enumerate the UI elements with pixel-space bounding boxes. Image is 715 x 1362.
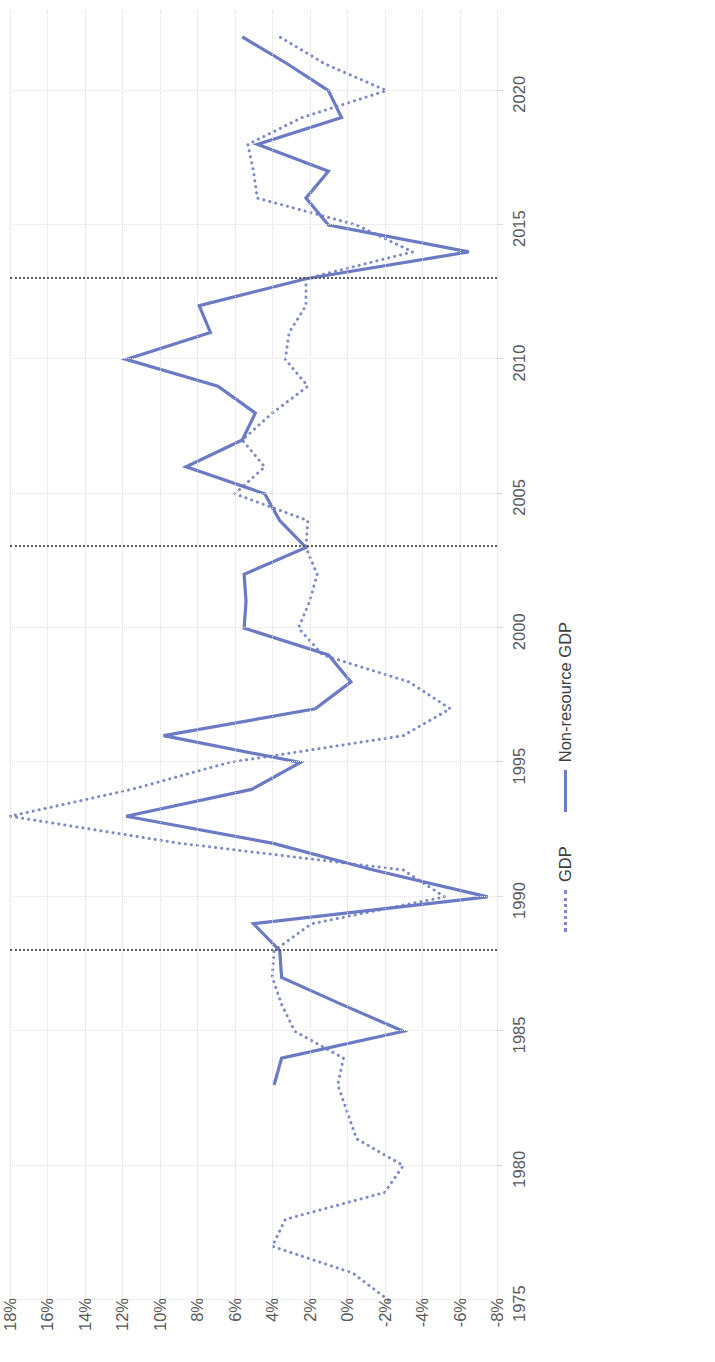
gridline-vertical [10, 896, 497, 897]
x-axis-tick-mark [497, 224, 503, 225]
y-axis-tick-label: 12% [113, 1298, 132, 1358]
chart-legend: GDP Non-resource GDP [556, 622, 575, 932]
x-axis-tick-label: 1995 [510, 748, 529, 785]
y-axis-tick-label: 16% [38, 1298, 57, 1358]
series-layer [10, 10, 497, 1300]
legend-item-gdp[interactable]: GDP [556, 846, 575, 932]
y-axis-tick-label: 18% [1, 1298, 20, 1358]
x-axis-tick-label: 1985 [510, 1017, 529, 1054]
x-axis-tick-label: 2015 [510, 210, 529, 247]
y-axis-tick-label: -2% [376, 1298, 395, 1358]
y-axis-tick-label: 8% [188, 1298, 207, 1358]
x-axis-tick-label: 1980 [510, 1151, 529, 1188]
gridline-vertical [10, 1165, 497, 1166]
y-axis-tick-label: 4% [263, 1298, 282, 1358]
gridline-horizontal [347, 10, 348, 1300]
x-axis-tick-label: 1975 [510, 1285, 529, 1322]
y-axis-tick-label: -8% [488, 1298, 507, 1358]
gridline-horizontal [497, 10, 498, 1300]
y-axis-tick-label: -4% [413, 1298, 432, 1358]
gridline-horizontal [47, 10, 48, 1300]
legend-item-non-resource-gdp[interactable]: Non-resource GDP [556, 622, 575, 812]
x-axis-tick-mark [497, 762, 503, 763]
gridline-horizontal [422, 10, 423, 1300]
gridline-vertical [10, 1030, 497, 1031]
x-axis-tick-mark [497, 896, 503, 897]
gridline-horizontal [235, 10, 236, 1300]
legend-swatch-non-resource-gdp-icon [564, 770, 567, 812]
gridline-horizontal [85, 10, 86, 1300]
y-axis-tick-label: -6% [451, 1298, 470, 1358]
gridline-vertical [10, 762, 497, 763]
gridline-horizontal [197, 10, 198, 1300]
x-axis-tick-mark [497, 1165, 503, 1166]
x-axis-tick-mark [497, 627, 503, 628]
x-axis-tick-mark [497, 1030, 503, 1031]
gridline-vertical [10, 627, 497, 628]
rotated-chart-stage: 18%16%14%12%10%8%6%4%2%0%-2%-4%-6%-8% 19… [0, 0, 715, 1362]
x-axis-tick-label: 2000 [510, 613, 529, 650]
x-axis-tick-mark [497, 493, 503, 494]
gridline-horizontal [385, 10, 386, 1300]
gridline-horizontal [122, 10, 123, 1300]
gridline-horizontal [310, 10, 311, 1300]
gridline-vertical [10, 493, 497, 494]
x-axis-tick-label: 2020 [510, 76, 529, 113]
y-axis-tick-label: 14% [76, 1298, 95, 1358]
reference-line [10, 949, 497, 951]
legend-label-gdp: GDP [556, 846, 575, 882]
reference-line [10, 277, 497, 279]
y-axis-tick-label: 0% [338, 1298, 357, 1358]
legend-swatch-gdp-icon [564, 890, 567, 932]
reference-line [10, 546, 497, 548]
chart-frame: 18%16%14%12%10%8%6%4%2%0%-2%-4%-6%-8% 19… [0, 0, 715, 1362]
gridline-horizontal [272, 10, 273, 1300]
y-axis-tick-label: 2% [301, 1298, 320, 1358]
x-axis-tick-mark [497, 358, 503, 359]
gridline-vertical [10, 358, 497, 359]
gridline-horizontal [10, 10, 11, 1300]
gridline-horizontal [160, 10, 161, 1300]
legend-label-non-resource-gdp: Non-resource GDP [556, 622, 575, 762]
plot-area [10, 10, 497, 1300]
x-axis-tick-label: 2010 [510, 345, 529, 382]
x-axis-tick-mark [497, 90, 503, 91]
gridline-vertical [10, 90, 497, 91]
y-axis-tick-label: 10% [151, 1298, 170, 1358]
series-line-non-resource-gdp [126, 37, 488, 1085]
y-axis-tick-label: 6% [226, 1298, 245, 1358]
gridline-horizontal [460, 10, 461, 1300]
gridline-vertical [10, 224, 497, 225]
x-axis-tick-label: 1990 [510, 882, 529, 919]
x-axis-tick-label: 2005 [510, 479, 529, 516]
